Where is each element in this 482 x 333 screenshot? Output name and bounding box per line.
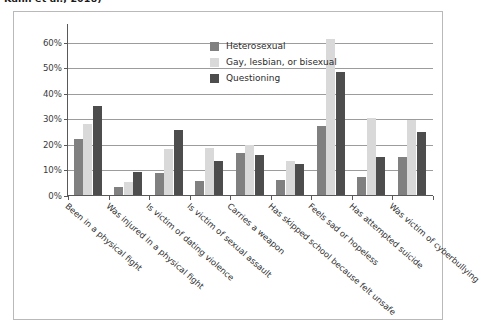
bar-group [68, 30, 109, 195]
legend-swatch-icon [210, 74, 219, 83]
bar-group [352, 30, 393, 195]
bar-group [109, 30, 150, 195]
x-axis-labels: Been in a physical fightWas injured in a… [68, 201, 448, 319]
x-tick-label: Feels sad or hopeless [307, 201, 381, 267]
bar [407, 120, 416, 195]
bar [295, 164, 304, 195]
bar [93, 106, 102, 195]
bar-group [149, 30, 190, 195]
bar [398, 157, 407, 195]
x-tick-label: Is victim of sexual assault [185, 201, 273, 280]
y-tick-label: 30% [20, 114, 62, 124]
x-tick-mark [230, 196, 231, 200]
bar-group [392, 30, 433, 195]
bar [357, 177, 366, 195]
bar [317, 126, 326, 195]
y-tick-label: 20% [20, 140, 62, 150]
x-tick-mark [352, 196, 353, 200]
x-tick-mark [149, 196, 150, 200]
bar [74, 139, 83, 195]
x-tick-mark [109, 196, 110, 200]
y-tick-label: 0% [20, 191, 62, 201]
bar [417, 132, 426, 195]
bar [83, 124, 92, 196]
x-tick-mark [68, 196, 69, 200]
bar [336, 72, 345, 195]
x-tick-label: Been in a physical fight [63, 201, 144, 273]
bar [245, 145, 254, 195]
legend-item: Questioning [210, 70, 337, 86]
legend-item: Gay, lesbian, or bisexual [210, 54, 337, 70]
y-tick-label: 40% [20, 89, 62, 99]
bar [164, 149, 173, 195]
bar [205, 148, 214, 195]
bar [236, 153, 245, 195]
chart-legend: HeterosexualGay, lesbian, or bisexualQue… [210, 38, 337, 86]
y-tick-label: 50% [20, 63, 62, 73]
bar [114, 187, 123, 195]
bar [367, 118, 376, 195]
bar [214, 161, 223, 195]
bar [376, 157, 385, 195]
bar [195, 181, 204, 195]
bar [255, 155, 264, 195]
legend-swatch-icon [210, 42, 219, 51]
x-tick-mark [190, 196, 191, 200]
bar [276, 180, 285, 195]
legend-label: Questioning [226, 73, 280, 83]
bar [286, 161, 295, 195]
x-tick-mark [433, 196, 434, 200]
legend-item: Heterosexual [210, 38, 337, 54]
x-tick-label: Has attempted suicide [347, 201, 425, 271]
y-tick-label: 60% [20, 38, 62, 48]
bar [174, 130, 183, 195]
x-tick-mark [271, 196, 272, 200]
chart-frame: 0%10%20%30%40%50%60% Been in a physical … [13, 11, 443, 320]
legend-label: Gay, lesbian, or bisexual [226, 57, 337, 67]
legend-swatch-icon [210, 58, 219, 67]
bar [133, 172, 142, 195]
bar [124, 182, 133, 195]
y-tick-label: 10% [20, 165, 62, 175]
caption-text: Kann et al., 2016) [4, 0, 102, 7]
x-tick-mark [311, 196, 312, 200]
legend-label: Heterosexual [226, 41, 286, 51]
y-axis-labels: 0%10%20%30%40%50%60% [14, 30, 62, 196]
bar [155, 173, 164, 195]
x-tick-mark [392, 196, 393, 200]
